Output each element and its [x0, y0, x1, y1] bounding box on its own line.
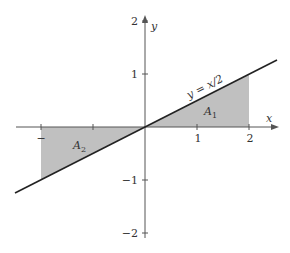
signed-area-figure: − 1 2 2 1 −1 −2 x y y = x/2 A1 A2: [0, 0, 290, 253]
x-tick-label-2: 2: [247, 132, 254, 145]
x-axis-label: x: [266, 112, 273, 125]
y-axis-label: y: [150, 20, 158, 33]
plot-canvas: − 1 2 2 1 −1 −2 x y y = x/2 A1 A2: [0, 0, 290, 253]
y-tick-label-2: 2: [131, 15, 138, 28]
y-tick-label-neg2: −2: [122, 227, 138, 240]
x-tick-label-neg2: −: [36, 132, 45, 145]
y-tick-label-neg1: −1: [122, 174, 138, 187]
y-tick-label-1: 1: [131, 68, 138, 81]
x-tick-label-1: 1: [195, 132, 202, 145]
y-axis-arrow-icon: [142, 15, 148, 23]
